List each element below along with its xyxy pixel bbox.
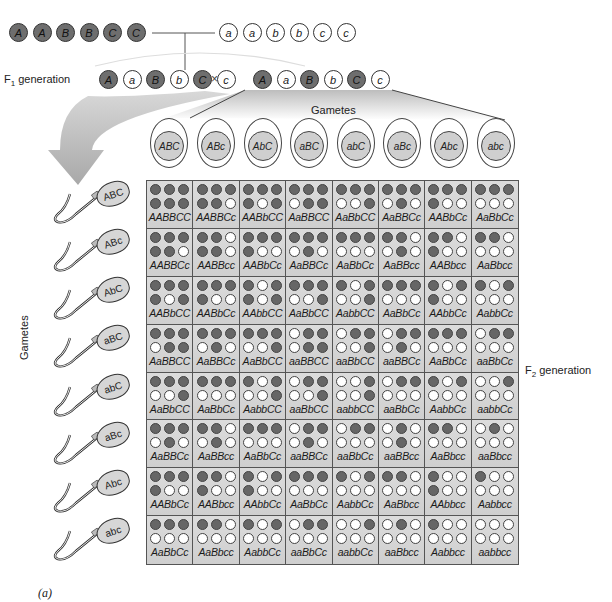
punnett-cell: AABbCc [425, 181, 471, 229]
dominant-dot-icon [150, 328, 161, 339]
genotype-label: AABbCc [429, 212, 467, 223]
allele-dot-row [336, 376, 375, 388]
dominant-dot-icon [164, 376, 175, 387]
genotype-label: AaBBCc [197, 356, 235, 367]
punnett-cell: aaBbCc [379, 373, 425, 421]
dominant-dot-icon [150, 232, 161, 243]
genotype-label: AaBbcc [199, 547, 234, 558]
dominant-dot-icon [317, 390, 328, 401]
allele-dot-row [197, 519, 236, 531]
dominant-dot-icon [150, 280, 161, 291]
recessive-allele: a [219, 23, 238, 42]
recessive-dot-icon [410, 342, 421, 353]
allele-dot-row [197, 485, 236, 497]
recessive-dot-icon [211, 533, 222, 544]
recessive-dot-icon [410, 390, 421, 401]
recessive-dot-icon [489, 246, 500, 257]
dominant-dot-icon [303, 423, 314, 434]
dominant-dot-icon [197, 246, 208, 257]
genotype-label: AabbCC [243, 404, 282, 415]
allele-dot-row [197, 294, 236, 306]
genotype-label: AABBCC [149, 212, 191, 223]
recessive-dot-icon [289, 328, 300, 339]
dominant-dot-icon [396, 280, 407, 291]
punnett-cell: AabbCc [472, 277, 518, 325]
recessive-dot-icon [410, 423, 421, 434]
genotype-label: AAbbCc [244, 499, 281, 510]
punnett-cell: AABBcc [193, 229, 239, 277]
allele-dot-row [475, 294, 514, 306]
allele-dot-row [289, 376, 328, 388]
recessive-dot-icon [410, 471, 421, 482]
dominant-dot-icon [350, 184, 361, 195]
allele-dot-row [428, 328, 467, 340]
genotype-label: AaBBcc [198, 451, 234, 462]
recessive-dot-icon [150, 533, 161, 544]
allele-dot-row [243, 232, 282, 244]
genotype-label: AabbCc [244, 547, 280, 558]
allele-dot-row [336, 184, 375, 196]
allele-dot-row [197, 533, 236, 545]
dominant-dot-icon [442, 328, 453, 339]
sperm-gamete-abC: abC [52, 373, 132, 419]
dominant-dot-icon [178, 519, 189, 530]
dominant-dot-icon [336, 232, 347, 243]
allele-dot-row [428, 533, 467, 545]
dominant-allele: A [253, 70, 272, 89]
punnett-cell: AABbCc [193, 277, 239, 325]
allele-dot-row [289, 519, 328, 531]
dominant-dot-icon [243, 280, 254, 291]
dominant-dot-icon [396, 246, 407, 257]
dominant-dot-icon [317, 328, 328, 339]
dominant-allele: B [80, 23, 99, 42]
recessive-dot-icon [503, 342, 514, 353]
allele-dot-row [243, 423, 282, 435]
egg-nucleus-label: aBC [294, 131, 324, 161]
recessive-dot-icon [257, 390, 268, 401]
genotype-label: AaBbCC [150, 404, 190, 415]
recessive-dot-icon [456, 294, 467, 305]
genotype-label: AabbCc [430, 404, 466, 415]
allele-dot-row [150, 342, 189, 354]
dominant-dot-icon [364, 328, 375, 339]
dominant-dot-icon [243, 198, 254, 209]
dominant-dot-icon [271, 423, 282, 434]
recessive-dot-icon [257, 533, 268, 544]
recessive-dot-icon [396, 533, 407, 544]
dominant-dot-icon [211, 328, 222, 339]
sperm-gametes-header: Gametes [18, 315, 30, 360]
recessive-dot-icon [503, 246, 514, 257]
genotype-label: AABbCc [150, 499, 188, 510]
dominant-dot-icon [150, 294, 161, 305]
sperm-tail-icon [52, 276, 104, 322]
sperm-tail-icon [52, 373, 104, 419]
allele-dot-row [336, 437, 375, 449]
dominant-dot-icon [364, 280, 375, 291]
egg-nucleus-label: ABc [201, 131, 231, 161]
allele-dot-row [150, 198, 189, 210]
dominant-allele: B [146, 70, 165, 89]
allele-dot-row [382, 294, 421, 306]
recessive-dot-icon [475, 198, 486, 209]
genotype-label: AABbcc [430, 260, 466, 271]
recessive-dot-icon [442, 342, 453, 353]
recessive-dot-icon [257, 485, 268, 496]
punnett-cell: aaBbCc [472, 325, 518, 373]
recessive-allele: c [217, 70, 236, 89]
recessive-dot-icon [289, 423, 300, 434]
dominant-dot-icon [271, 232, 282, 243]
sperm-gamete-ABc: ABc [52, 228, 132, 274]
dominant-dot-icon [211, 376, 222, 387]
recessive-allele: a [123, 70, 142, 89]
recessive-dot-icon [257, 519, 268, 530]
dominant-dot-icon [197, 232, 208, 243]
dominant-dot-icon [317, 342, 328, 353]
dominant-dot-icon [164, 519, 175, 530]
recessive-dot-icon [410, 519, 421, 530]
dominant-dot-icon [410, 328, 421, 339]
recessive-dot-icon [243, 533, 254, 544]
recessive-dot-icon [350, 437, 361, 448]
allele-dot-row [289, 471, 328, 483]
dominant-dot-icon [396, 184, 407, 195]
allele-dot-row [336, 294, 375, 306]
